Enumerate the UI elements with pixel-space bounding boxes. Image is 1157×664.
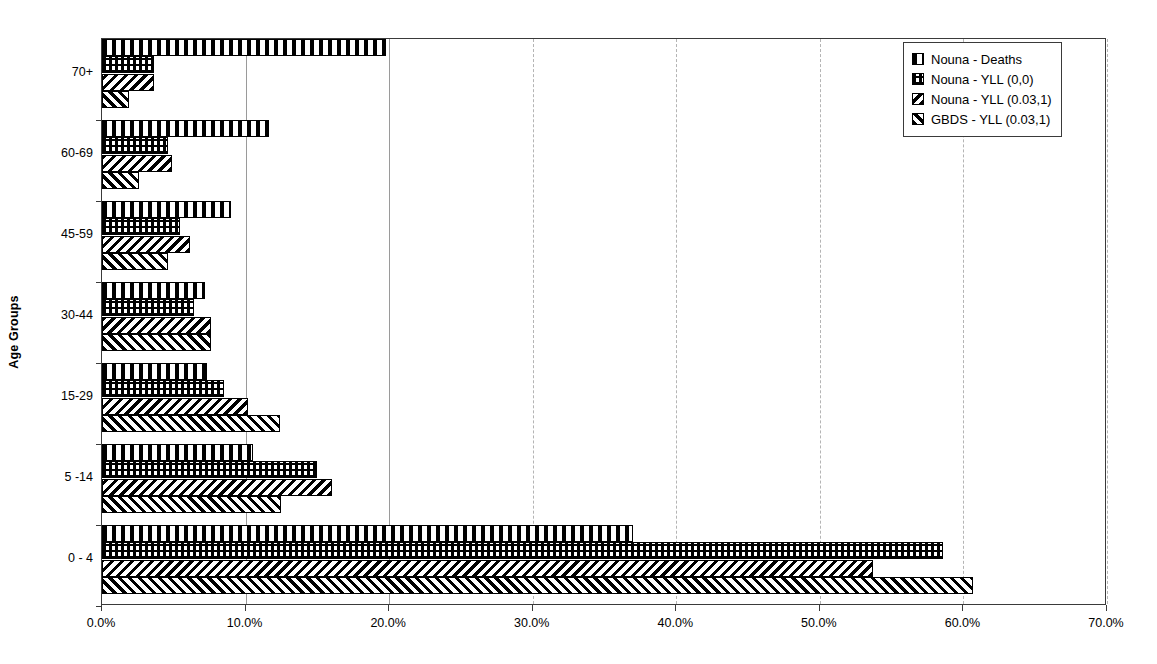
x-axis-tick: [819, 605, 820, 611]
bar: [102, 155, 172, 172]
x-axis-label: 10.0%: [227, 616, 262, 630]
bar: [102, 380, 224, 397]
bar: [102, 253, 168, 270]
bar: [102, 39, 386, 56]
bar: [102, 542, 943, 559]
bar: [102, 74, 154, 91]
bar: [102, 496, 281, 513]
legend-item: GBDS - YLL (0.03,1): [912, 109, 1052, 129]
y-axis-category-label: 70+: [5, 65, 93, 79]
bar: [102, 363, 207, 380]
x-axis-tick: [532, 605, 533, 611]
legend-item: Nouna - YLL (0.03,1): [912, 89, 1052, 109]
gridline: [820, 39, 822, 604]
y-axis-category-label: 60-69: [5, 146, 93, 160]
legend-label: Nouna - YLL (0.03,1): [931, 92, 1052, 107]
chart-legend: Nouna - Deaths Nouna - YLL (0,0) Nouna -…: [903, 42, 1062, 137]
bar: [102, 317, 211, 334]
legend-label: Nouna - Deaths: [931, 52, 1022, 67]
legend-swatch-gbds-icon: [912, 113, 924, 125]
bar: [102, 525, 633, 542]
x-axis-label: 30.0%: [514, 616, 549, 630]
bar: [102, 577, 973, 594]
legend-swatch-yll00-icon: [912, 73, 924, 85]
x-axis-label: 60.0%: [945, 616, 980, 630]
y-axis-category-label: 30-44: [5, 308, 93, 322]
bar: [102, 137, 168, 154]
bar: [102, 444, 253, 461]
x-axis-label: 70.0%: [1088, 616, 1123, 630]
y-axis-category-label: 0 - 4: [5, 551, 93, 565]
bar: [102, 120, 269, 137]
bar: [102, 479, 332, 496]
bar: [102, 415, 280, 432]
gridline: [533, 39, 535, 604]
x-axis-label: 50.0%: [801, 616, 836, 630]
gridline: [389, 39, 390, 604]
bar: [102, 334, 211, 351]
bar: [102, 282, 205, 299]
x-axis-label: 0.0%: [87, 616, 116, 630]
bar: [102, 91, 129, 108]
bar: [102, 299, 194, 316]
x-axis-tick: [962, 605, 963, 611]
bar: [102, 218, 180, 235]
x-axis-label: 40.0%: [658, 616, 693, 630]
y-axis-category-label: 15-29: [5, 389, 93, 403]
legend-label: Nouna - YLL (0,0): [931, 72, 1034, 87]
bar: [102, 236, 190, 253]
y-axis-category-label: 5 -14: [5, 470, 93, 484]
x-axis-tick: [388, 605, 389, 611]
gridline: [676, 39, 678, 604]
bar: [102, 461, 317, 478]
bar: [102, 398, 248, 415]
bar: [102, 201, 231, 218]
legend-item: Nouna - Deaths: [912, 49, 1052, 69]
x-axis-tick: [1106, 605, 1107, 611]
bar: [102, 172, 139, 189]
legend-item: Nouna - YLL (0,0): [912, 69, 1052, 89]
gridline: [1107, 39, 1109, 604]
x-axis-tick: [101, 605, 102, 611]
x-axis-tick: [245, 605, 246, 611]
bar: [102, 560, 873, 577]
bar: [102, 56, 154, 73]
bar-chart: Age Groups Nouna - Deaths Nouna - YLL (0…: [0, 0, 1157, 664]
y-axis-title-label: Age Groups: [7, 295, 21, 369]
x-axis-tick: [675, 605, 676, 611]
legend-swatch-yll031-icon: [912, 93, 924, 105]
y-axis-category-label: 45-59: [5, 227, 93, 241]
legend-label: GBDS - YLL (0.03,1): [931, 112, 1050, 127]
x-axis-label: 20.0%: [370, 616, 405, 630]
legend-swatch-deaths-icon: [912, 53, 924, 65]
